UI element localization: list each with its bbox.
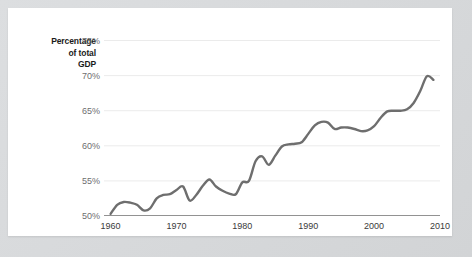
x-tick-label-1980: 1980 [232,221,252,231]
chart-card: Percentage of total GDP 50%55%60%65%70%7… [8,8,452,236]
y-tick-label-65: 65% [82,106,100,116]
y-tick-label-60: 60% [82,141,100,151]
y-axis-title-line-3: GDP [28,59,96,71]
chart-figure: Percentage of total GDP 50%55%60%65%70%7… [8,8,452,236]
screenshot-root: Percentage of total GDP 50%55%60%65%70%7… [0,0,472,257]
y-tick-label-75: 75% [82,36,100,46]
y-tick-label-50: 50% [82,211,100,221]
y-axis-tick-labels: 50%55%60%65%70%75% [104,30,440,216]
x-tick-label-1990: 1990 [298,221,318,231]
x-tick-label-1960: 1960 [101,221,121,231]
y-tick-label-55: 55% [82,176,100,186]
x-tick-label-2010: 2010 [430,221,450,231]
x-tick-label-2000: 2000 [364,221,384,231]
x-tick-label-1970: 1970 [166,221,186,231]
y-axis-title-line-2: of total [28,48,96,60]
plot-area: 50%55%60%65%70%75% 196019701980199020002… [104,30,440,216]
y-tick-label-70: 70% [82,71,100,81]
